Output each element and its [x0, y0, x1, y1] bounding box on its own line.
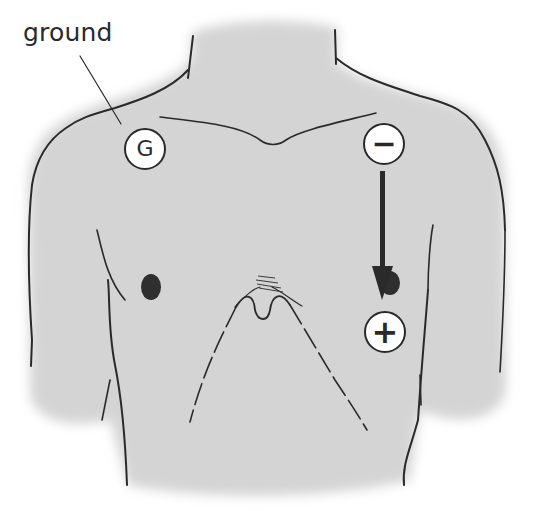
- torso-fill: [28, 21, 506, 496]
- torso-illustration: [0, 0, 533, 511]
- torso-right-lower: [420, 375, 421, 405]
- ground-electrode: G: [124, 128, 166, 170]
- negative-electrode: −: [363, 123, 405, 165]
- ground-label: ground: [23, 18, 113, 47]
- minus-icon: −: [371, 129, 396, 159]
- plus-icon: +: [372, 316, 399, 348]
- nipple-left: [141, 274, 161, 300]
- ground-symbol: G: [136, 138, 153, 160]
- positive-electrode: +: [364, 311, 406, 353]
